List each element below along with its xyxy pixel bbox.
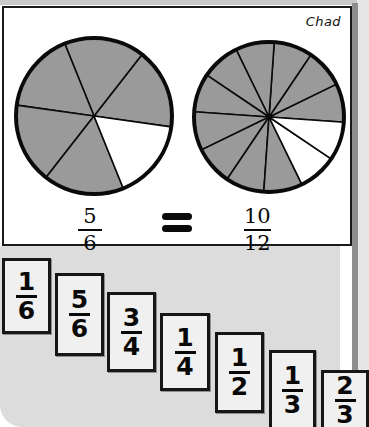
fraction-card-numerator: 1 [18, 270, 35, 294]
fraction-right-denominator: 12 [244, 232, 271, 254]
fraction-card-denominator: 2 [231, 375, 248, 399]
fraction-left-numerator: 5 [83, 206, 96, 228]
fraction-card-denominator: 3 [284, 393, 301, 417]
fraction-card[interactable]: 13 [269, 350, 316, 427]
fraction-card-denominator: 3 [336, 403, 353, 427]
pie-chart-left [12, 34, 176, 202]
pie-left-svg [12, 34, 176, 198]
fraction-card-numerator: 5 [71, 288, 88, 312]
fraction-card-value: 23 [335, 374, 356, 427]
equals-bar-top [162, 213, 192, 220]
fraction-label-left: 5 6 [78, 206, 102, 254]
right-edge-band [357, 0, 369, 427]
pie-chart-right [190, 38, 348, 200]
pie-right-svg [190, 38, 348, 196]
fraction-model-card: Chad 5 6 10 12 [2, 6, 352, 246]
fraction-card-denominator: 6 [71, 317, 88, 341]
student-name-label: Chad [306, 14, 341, 29]
pie-center-dot [266, 114, 272, 120]
pie-center-dot [92, 114, 95, 117]
top-edge-band [0, 0, 369, 5]
fraction-card-value: 56 [69, 288, 90, 341]
fraction-card-numerator: 2 [336, 374, 353, 398]
worksheet-screen: Chad 5 6 10 12 16563414121323 [0, 0, 369, 427]
fraction-card-value: 12 [229, 346, 250, 399]
fraction-card[interactable]: 16 [2, 258, 51, 334]
fraction-card-value: 14 [175, 326, 196, 379]
fraction-card-numerator: 1 [231, 346, 248, 370]
fraction-left-denominator: 6 [83, 232, 96, 254]
fraction-card-numerator: 1 [284, 364, 301, 388]
fraction-card-denominator: 6 [18, 299, 35, 323]
fraction-card-denominator: 4 [123, 335, 140, 359]
fraction-card[interactable]: 12 [215, 332, 264, 413]
fraction-card-value: 16 [16, 270, 37, 323]
fraction-right-numerator: 10 [244, 206, 271, 228]
fraction-card-numerator: 1 [176, 326, 193, 350]
right-vertical-rule [352, 3, 358, 427]
equals-bar-bottom [162, 225, 192, 232]
fraction-card-denominator: 4 [176, 355, 193, 379]
fraction-card[interactable]: 34 [107, 292, 156, 372]
fraction-label-right: 10 12 [244, 206, 271, 254]
fraction-card[interactable]: 56 [55, 273, 104, 356]
equals-sign [162, 213, 192, 235]
fraction-card[interactable]: 14 [160, 313, 210, 391]
fraction-card-value: 34 [121, 306, 142, 359]
fraction-card[interactable]: 23 [321, 370, 369, 427]
fraction-card-value: 13 [282, 364, 303, 417]
fraction-card-numerator: 3 [123, 306, 140, 330]
